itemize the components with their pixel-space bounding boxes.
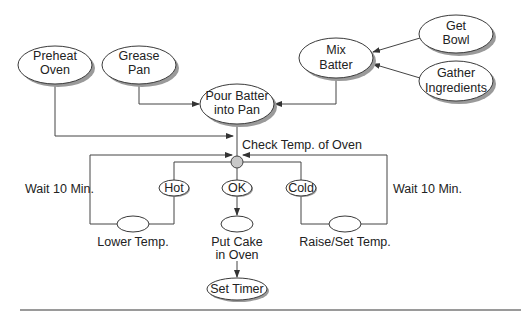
- node-label: Gather: [437, 66, 475, 80]
- check-temp-label: Check Temp. of Oven: [242, 138, 362, 152]
- node-label: OK: [228, 181, 247, 195]
- node-label: Set Timer: [210, 282, 264, 296]
- node-label: Grease: [119, 49, 160, 63]
- edge-grease-to-pour: [139, 85, 199, 104]
- node-label: Hot: [164, 181, 184, 195]
- node-raise-temp: Raise/Set Temp.: [299, 216, 390, 249]
- edge-gather-to-mix: [373, 64, 420, 78]
- edge-cold-to-raise: [301, 195, 330, 224]
- node-label: Pan: [128, 63, 150, 77]
- edge-decision-to-cold: [243, 162, 301, 181]
- edge-hot-to-lower: [148, 195, 174, 224]
- node-hot: Hot: [159, 180, 190, 197]
- node-put-cake: Put Cake in Oven: [211, 216, 262, 262]
- node-label: in Oven: [215, 248, 258, 262]
- edge-bowl-to-mix: [373, 38, 420, 52]
- node-label: into Pan: [214, 103, 260, 117]
- node-label: Bowl: [442, 33, 469, 47]
- decision-node: [231, 156, 243, 168]
- node-cold: Cold: [286, 180, 317, 197]
- edge-mix-to-pour: [275, 79, 336, 104]
- edge-decision-to-hot: [174, 162, 231, 181]
- node-label: Oven: [40, 63, 70, 77]
- wait-left-label: Wait 10 Min.: [25, 182, 94, 196]
- node-label: Ingredients: [425, 81, 487, 95]
- node-label: Pour Batter: [205, 89, 268, 103]
- node-gather-ingredients: Gather Ingredients: [419, 61, 496, 104]
- node-label: Lower Temp.: [97, 235, 168, 249]
- node-set-timer: Set Timer: [207, 278, 269, 302]
- node-label: Batter: [319, 58, 352, 72]
- node-get-bowl: Get Bowl: [419, 15, 496, 56]
- node-label: Preheat: [33, 49, 77, 63]
- node-preheat-oven: Preheat Oven: [18, 46, 95, 87]
- node-label: Raise/Set Temp.: [299, 235, 390, 249]
- node-mix-batter: Mix Batter: [299, 38, 376, 81]
- node-pour-batter: Pour Batter into Pan: [200, 84, 277, 127]
- node-label: Mix: [326, 43, 346, 57]
- flow-diagram: Preheat Oven Grease Pan Pour Batter into…: [0, 0, 521, 331]
- wait-right-label: Wait 10 Min.: [393, 182, 462, 196]
- node-ok: OK: [222, 180, 253, 197]
- node-label: Cold: [288, 181, 314, 195]
- node-label: Get: [446, 19, 467, 33]
- node-lower-temp: Lower Temp.: [97, 216, 168, 249]
- node-label: Put Cake: [211, 235, 262, 249]
- node-grease-pan: Grease Pan: [102, 46, 179, 87]
